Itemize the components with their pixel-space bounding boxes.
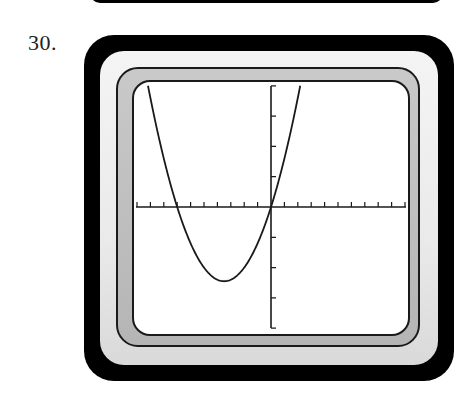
- calculator-screen: [132, 80, 410, 336]
- graph-plot: [134, 82, 410, 336]
- parabola-curve: [148, 86, 300, 282]
- problem-number: 30.: [28, 30, 57, 56]
- previous-figure-frame-edge: [90, 0, 443, 3]
